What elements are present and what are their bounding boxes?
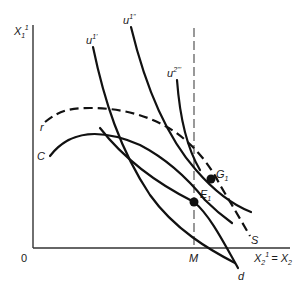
e1-point [190, 198, 199, 207]
g1-point [207, 175, 216, 184]
u1-prime-label: u1' [86, 33, 98, 46]
u1-prime-curve [93, 47, 235, 263]
g1-label: G1 [216, 168, 229, 182]
s-label: S [251, 234, 259, 246]
x-axis-label: X21= X2 [253, 251, 292, 266]
y-axis-label: X11 [13, 24, 29, 39]
r-label: r [40, 121, 45, 133]
diagram-canvas: X11 u1' u1'' u2''' r C E1 G1 S d M X21= … [0, 0, 304, 295]
u1-double-prime-label: u1'' [123, 13, 136, 26]
e1-label: E1 [200, 188, 211, 202]
d-curve [100, 128, 238, 268]
d-label: d [238, 270, 245, 282]
c-label: C [37, 150, 45, 162]
u2-triple-prime-label: u2''' [167, 66, 182, 79]
origin-label: 0 [21, 252, 27, 264]
m-label: M [189, 252, 199, 264]
u2-triple-prime-curve-top [177, 80, 200, 170]
